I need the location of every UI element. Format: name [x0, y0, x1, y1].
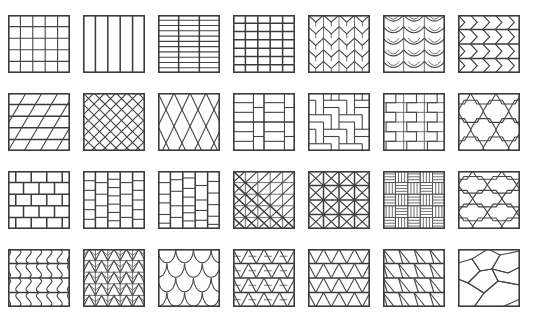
pattern-svg-elongated-hexagon — [458, 171, 520, 229]
pattern-svg-horizontal-zigzag-chevron — [458, 15, 520, 73]
pattern-svg-hexagon-honeycomb — [458, 93, 520, 151]
pattern-svg-small-chevron-zigzag — [83, 249, 145, 307]
pattern-svg-triangle-star-lattice — [233, 249, 295, 307]
pattern-svg-fish-scale-scallop — [158, 249, 220, 307]
pattern-svg-elongated-diamond-harlequin — [158, 93, 220, 151]
pattern-tile-running-bond-brick[interactable] — [8, 171, 70, 229]
pattern-tile-curved-fan-scallop[interactable] — [383, 15, 445, 73]
pattern-tile-diagonal-half-square[interactable] — [233, 171, 295, 229]
pattern-svg-equilateral-triangle-grid — [308, 249, 370, 307]
pattern-tile-elongated-hexagon[interactable] — [458, 171, 520, 229]
pattern-tile-vertical-stack-offset-brick[interactable] — [83, 171, 145, 229]
pattern-tile-horizontal-bands-3col[interactable] — [158, 15, 220, 73]
pattern-tile-equilateral-triangle-grid[interactable] — [308, 249, 370, 307]
pattern-tile-basketweave-pinwheel[interactable] — [233, 93, 295, 151]
pattern-tile-quartered-square-triangles[interactable] — [308, 171, 370, 229]
pattern-sheet — [0, 0, 544, 327]
pattern-svg-vertical-stripes — [83, 15, 145, 73]
pattern-svg-chevron-down-arrows — [308, 15, 370, 73]
pattern-svg-wavy-vertical-ribbon — [8, 249, 70, 307]
pattern-svg-woven-parquet-weave — [383, 171, 445, 229]
pattern-svg-horizontal-bands-3col — [158, 15, 220, 73]
pattern-tile-step-zigzag-blocks[interactable] — [383, 93, 445, 151]
pattern-tile-hexagon-honeycomb[interactable] — [458, 93, 520, 151]
pattern-tile-rectangular-grid-5x7[interactable] — [233, 15, 295, 73]
pattern-svg-rectangular-grid-5x7 — [233, 15, 295, 73]
pattern-svg-square-grid-5x5 — [8, 15, 70, 73]
pattern-svg-diagonal-lattice-diamond — [83, 93, 145, 151]
pattern-tile-woven-parquet-weave[interactable] — [383, 171, 445, 229]
pattern-tile-fish-scale-scallop[interactable] — [158, 249, 220, 307]
pattern-svg-curved-fan-scallop — [383, 15, 445, 73]
pattern-svg-basketweave-pinwheel — [233, 93, 295, 151]
pattern-tile-herringbone-blocks[interactable] — [308, 93, 370, 151]
pattern-tile-vertical-stripes[interactable] — [83, 15, 145, 73]
pattern-svg-quartered-square-triangles — [308, 171, 370, 229]
pattern-tile-chevron-down-arrows[interactable] — [308, 15, 370, 73]
pattern-svg-diagonal-parallelogram — [8, 93, 70, 151]
pattern-tile-small-chevron-zigzag[interactable] — [83, 249, 145, 307]
pattern-svg-vertical-stack-offset-brick — [83, 171, 145, 229]
pattern-svg-irregular-hexagon-paving — [458, 249, 520, 307]
pattern-tile-elongated-diamond-harlequin[interactable] — [158, 93, 220, 151]
pattern-tile-wavy-vertical-ribbon[interactable] — [8, 249, 70, 307]
pattern-svg-diagonal-half-square — [233, 171, 295, 229]
pattern-tile-square-grid-5x5[interactable] — [8, 15, 70, 73]
pattern-tile-skewed-triangle-grid[interactable] — [383, 249, 445, 307]
pattern-tile-triangle-star-lattice[interactable] — [233, 249, 295, 307]
pattern-tile-diagonal-lattice-diamond[interactable] — [83, 93, 145, 151]
pattern-tile-vertical-random-brick[interactable] — [158, 171, 220, 229]
pattern-svg-vertical-random-brick — [158, 171, 220, 229]
pattern-tile-diagonal-parallelogram[interactable] — [8, 93, 70, 151]
pattern-svg-herringbone-blocks — [308, 93, 370, 151]
pattern-tile-horizontal-zigzag-chevron[interactable] — [458, 15, 520, 73]
pattern-svg-step-zigzag-blocks — [383, 93, 445, 151]
pattern-tile-irregular-hexagon-paving[interactable] — [458, 249, 520, 307]
pattern-svg-running-bond-brick — [8, 171, 70, 229]
pattern-svg-skewed-triangle-grid — [383, 249, 445, 307]
